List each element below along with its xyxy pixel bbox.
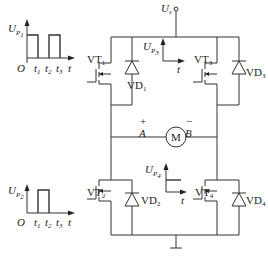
vd1-label: VD1 (127, 79, 147, 93)
diode-vd4-icon (232, 193, 246, 206)
vd2-label: VD2 (141, 194, 161, 208)
tick-t2: t2 (45, 62, 52, 76)
ground-icon (170, 235, 182, 248)
waveform-up3: UP3 t (143, 38, 185, 75)
diode-vd2-icon (125, 193, 139, 206)
diode-vd3-icon (232, 61, 246, 74)
h-bridge-diagram: UP1 O t1 t2 t3 t UP2 O t1 t2 t3 t Us (0, 0, 268, 256)
node-a-label: A (138, 127, 146, 139)
tick-t1: t1 (34, 216, 41, 230)
mosfet-vt1-icon (87, 63, 111, 84)
mosfet-vt3-icon (193, 63, 217, 84)
tick-t3: t3 (56, 216, 63, 230)
node-a-polarity: + (140, 115, 146, 127)
vt3-label: VT3 (194, 53, 213, 67)
up3-label: UP3 (143, 40, 159, 57)
vd4-label: VD4 (246, 194, 266, 208)
x-axis-label: t (68, 216, 72, 228)
up4-label: UP4 (145, 163, 161, 180)
node-b-polarity: − (186, 115, 192, 127)
waveform-up2: UP2 O t1 t2 t3 t (8, 184, 75, 230)
supply-terminal: Us (161, 2, 178, 37)
vd3-label: VD3 (246, 66, 266, 80)
motor-label: M (171, 131, 181, 143)
diode-vd1-icon (125, 61, 139, 74)
vt2-label: VT2 (87, 186, 106, 200)
x-axis-label: t (177, 63, 181, 75)
up1-label: UP1 (8, 22, 24, 39)
waveform-up1: UP1 O t1 t2 t3 t (8, 19, 75, 76)
vt4-label: VT4 (195, 186, 214, 200)
x-axis-label: t (68, 62, 72, 74)
origin-label: O (17, 216, 25, 228)
tick-t3: t3 (56, 62, 63, 76)
origin-label: O (17, 62, 25, 74)
supply-label: Us (161, 2, 172, 16)
up2-label: UP2 (8, 184, 24, 201)
tick-t1: t1 (34, 62, 41, 76)
tick-t2: t2 (45, 216, 52, 230)
vt1-label: VT1 (87, 53, 106, 67)
x-axis-label: t (181, 194, 185, 206)
node-b-label: B (185, 127, 192, 139)
motor-icon: M (166, 127, 186, 147)
